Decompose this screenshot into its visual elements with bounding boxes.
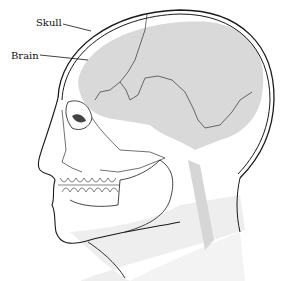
head-illustration	[0, 0, 284, 281]
brain-label: Brain	[11, 51, 39, 61]
skull-leader-line	[63, 24, 91, 31]
skull-label: Skull	[36, 18, 62, 28]
brain-region	[78, 22, 263, 150]
teeth	[58, 178, 120, 192]
brain-leader-line	[40, 55, 88, 60]
head-anatomy-diagram: Skull Brain	[0, 0, 284, 281]
